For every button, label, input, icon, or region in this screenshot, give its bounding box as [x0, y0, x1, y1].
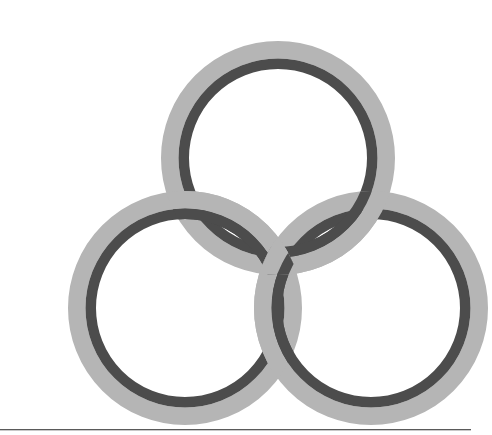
logo-figure: Three interlocking rings logo: [40, 16, 492, 435]
interlocking-rings-icon: Three interlocking rings logo: [40, 16, 492, 435]
footer-rule-highlight: [0, 430, 471, 431]
